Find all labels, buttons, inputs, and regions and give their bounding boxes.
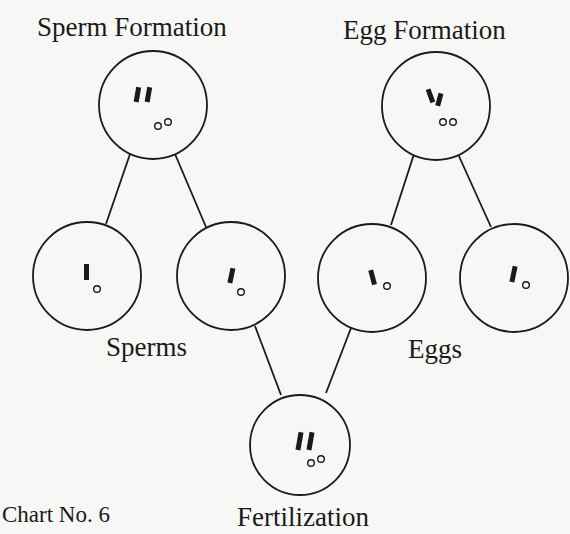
edge-egg-parent-egg-2 [458, 154, 491, 227]
edge-sperm-parent-sperm-1 [106, 154, 130, 224]
label-egg-formation: Egg Formation [343, 15, 506, 46]
edge-sperm-2-zygote [255, 326, 281, 395]
edge-sperm-parent-sperm-2 [175, 154, 206, 227]
chart-caption: Chart No. 6 [2, 502, 110, 528]
cell-egg-parent [382, 52, 490, 160]
chromosome-icon [84, 264, 89, 280]
cell-sperm-parent [99, 51, 207, 159]
label-sperm-formation: Sperm Formation [37, 12, 227, 43]
label-fertilization: Fertilization [237, 502, 369, 533]
label-eggs: Eggs [408, 334, 462, 365]
edge-egg-1-zygote [326, 328, 351, 393]
edge-egg-parent-egg-1 [391, 154, 414, 225]
label-sperms: Sperms [106, 332, 187, 363]
diagram-canvas [0, 0, 570, 534]
